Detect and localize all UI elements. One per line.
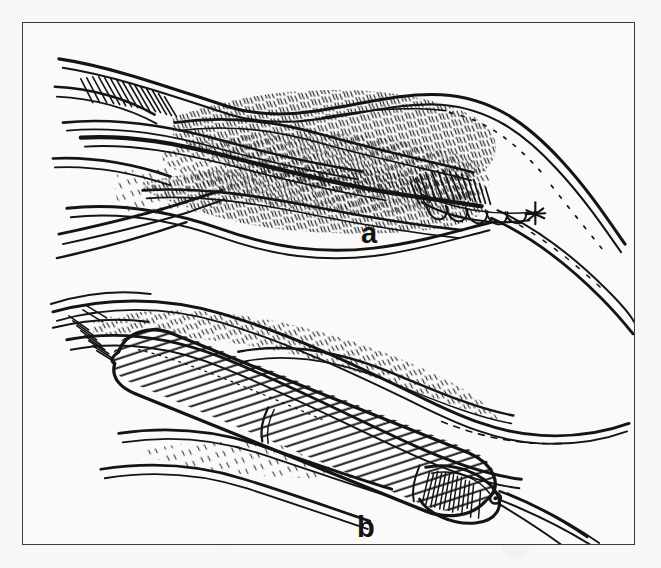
- panel-b-artwork: [51, 292, 629, 544]
- figure-page: a b: [0, 0, 661, 568]
- illustration-artwork: [23, 23, 634, 544]
- panel-label-a: a: [361, 219, 377, 248]
- figure-frame-border: a b: [22, 22, 635, 545]
- panel-label-b: b: [357, 513, 375, 542]
- suture-knot-b: [490, 493, 597, 544]
